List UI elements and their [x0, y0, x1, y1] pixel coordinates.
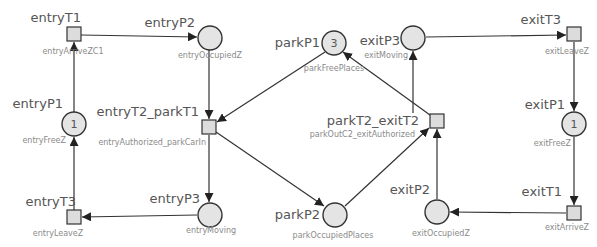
place-label: exitOccupiedZ — [412, 229, 470, 238]
arc-entryT1-entryP2 — [81, 35, 197, 37]
transition-entryT1[interactable]: entryT1 entryArriveZC1 — [30, 10, 103, 56]
place-label: entryMoving — [186, 226, 236, 235]
place-parkP1[interactable]: 3 parkP1 parkFreePlaces — [275, 31, 364, 73]
token-count: 3 — [331, 37, 338, 50]
place-label: exitFreeZ — [534, 139, 572, 148]
transition-label: exitArriveZ — [545, 223, 590, 232]
place-name: entryP1 — [13, 96, 63, 111]
place-label: parkOccupiedPlaces — [293, 231, 374, 240]
arc-entryT2parkT1-parkP2 — [216, 132, 324, 206]
transition-name: parkT2_exitT2 — [327, 113, 419, 128]
place-label: exitMoving — [364, 51, 408, 60]
place-name: entryP3 — [150, 191, 200, 206]
transition-parkT2_exitT2[interactable]: parkT2_exitT2 parkOutC2_exitAuthorized — [310, 113, 444, 139]
place-name: exitP2 — [390, 182, 430, 197]
place-label: entryOccupiedZ — [178, 51, 243, 60]
arc-parkT2exitT2-parkP1 — [343, 52, 430, 115]
petri-net-diagram: 1 entryP1 entryFreeZ entryP2 entryOccupi… — [0, 0, 597, 247]
place-exitP3[interactable]: exitP3 exitMoving — [360, 26, 425, 60]
transition-name: entryT1 — [30, 10, 81, 25]
transition-name: exitT3 — [521, 12, 561, 27]
transition-label: parkOutC2_exitAuthorized — [310, 130, 415, 139]
arc-entryP3-entryT3 — [82, 215, 197, 217]
place-name: entryP2 — [145, 15, 195, 30]
token-count: 1 — [571, 118, 578, 131]
transition-name: entryT3 — [25, 194, 76, 209]
place-entryP3[interactable]: entryP3 entryMoving — [150, 191, 237, 235]
place-name: parkP2 — [275, 207, 320, 222]
place-label: parkFreePlaces — [304, 64, 364, 73]
transition-label: entryLeaveZ — [33, 229, 84, 238]
transition-label: entryAuthorized_parkCarIn — [98, 138, 206, 147]
arc-exitT1-exitP2 — [450, 212, 566, 213]
place-exitP2[interactable]: exitP2 exitOccupiedZ — [390, 182, 471, 238]
place-exitP1[interactable]: 1 exitP1 exitFreeZ — [525, 97, 586, 148]
place-name: parkP1 — [275, 35, 320, 50]
transition-exitT1[interactable]: exitT1 exitArriveZ — [522, 184, 590, 232]
transition-label: exitLeaveZ — [545, 47, 590, 56]
arc-parkP1-entryT2parkT1 — [217, 52, 325, 122]
transition-entryT3[interactable]: entryT3 entryLeaveZ — [25, 194, 83, 238]
transition-name: entryT2_parkT1 — [97, 104, 199, 119]
place-entryP1[interactable]: 1 entryP1 entryFreeZ — [13, 96, 86, 145]
transition-entryT2_parkT1[interactable]: entryT2_parkT1 entryAuthorized_parkCarIn — [97, 104, 216, 147]
place-label: entryFreeZ — [22, 136, 66, 145]
token-count: 1 — [71, 118, 78, 131]
arcs — [74, 35, 574, 217]
arc-exitP3-exitT3 — [426, 35, 566, 37]
transition-name: exitT1 — [522, 184, 562, 199]
place-name: exitP1 — [525, 97, 565, 112]
place-parkP2[interactable]: parkP2 parkOccupiedPlaces — [275, 203, 374, 240]
place-name: exitP3 — [360, 33, 400, 48]
transition-label: entryArriveZC1 — [42, 47, 103, 56]
transition-exitT3[interactable]: exitT3 exitLeaveZ — [521, 12, 590, 56]
